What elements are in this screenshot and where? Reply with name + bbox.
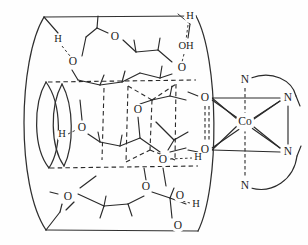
hidden-edge-vertical-left	[126, 86, 128, 162]
bond-low-7	[104, 204, 128, 206]
bond-upper-12	[78, 80, 100, 85]
bond-mid-8	[100, 142, 120, 146]
hbond-lower-left	[68, 130, 76, 134]
atom-label-o-lower-right: O	[176, 189, 184, 201]
atom-label-co: Co	[238, 115, 252, 127]
bond-low-2	[60, 204, 62, 212]
bond-mid-16	[156, 122, 174, 140]
bond-low-6	[100, 206, 104, 218]
bond-low-8	[128, 204, 132, 216]
atom-label-h-mid-right: H	[194, 151, 202, 162]
nitrogen-label-group: N N N N	[238, 73, 295, 193]
bond-upper-10	[158, 38, 160, 50]
bond-mid-14	[168, 140, 174, 150]
hidden-edge-lower	[50, 166, 198, 168]
atom-label-o-mid-center: O	[159, 153, 167, 165]
co-bond-o-lower	[212, 126, 237, 150]
atom-label-o-ligand-lower: O	[201, 143, 209, 155]
bond-upper-13	[100, 75, 104, 85]
macrocycle-label-group: H O O H OH O O H O O	[52, 10, 204, 232]
bond-upper-8	[158, 50, 172, 62]
atom-label-o-lower-left: O	[64, 190, 72, 202]
bond-upper-17	[140, 73, 160, 78]
bond-low-11	[152, 192, 170, 198]
torus-top-edge	[44, 16, 196, 17]
bond-low-5	[104, 196, 106, 206]
equatorial-edge-bottom	[212, 150, 280, 152]
bond-upper-5	[82, 37, 86, 56]
bond-upper-4	[86, 28, 97, 37]
atom-label-h-upper-left: H	[54, 33, 62, 44]
atom-label-h-mid-left: H	[58, 128, 66, 139]
atom-label-o-upper-left: O	[69, 55, 77, 67]
bond-mid-5	[138, 117, 140, 138]
atom-label-o-bottom-right: O	[174, 219, 182, 231]
bond-low-15	[163, 168, 166, 186]
o-link-to-macrocycle-upper	[188, 92, 198, 96]
hidden-ring-edges	[48, 80, 198, 168]
bond-low-3	[50, 192, 58, 194]
atom-label-oh-upper-right: OH	[178, 40, 194, 51]
bond-low-12	[170, 188, 174, 198]
atom-label-o-lower-center: O	[142, 180, 150, 192]
oxygen-ligand-label-group: O O	[198, 91, 212, 157]
bond-low-9	[128, 196, 144, 204]
glucose-backbone-upper	[44, 14, 190, 85]
bond-upper-2	[97, 28, 108, 33]
bond-upper-16	[122, 73, 140, 82]
glucose-backbone-middle	[80, 86, 188, 152]
bond-mid-12	[80, 100, 82, 120]
torus-cavity-inner-ellipse	[46, 82, 58, 168]
torus-left-rim	[24, 17, 46, 230]
atom-label-n-top: N	[241, 73, 250, 85]
metal-label-group: Co	[236, 113, 255, 132]
bond-upper-3	[97, 16, 98, 28]
bond-low-17	[80, 176, 96, 188]
atom-label-n-bottom: N	[241, 179, 250, 191]
atom-label-o-upper-right: O	[178, 61, 186, 73]
bond-upper-7	[136, 50, 158, 52]
bond-upper-11	[72, 70, 78, 80]
bond-upper-1	[44, 17, 58, 33]
structure-canvas: Co N N N N O O H	[0, 0, 308, 245]
hidden-edge-mid-vertical	[150, 100, 152, 150]
en-bridge-right-tail-2	[297, 146, 301, 156]
bond-upper-14	[100, 82, 122, 85]
atom-label-h-lower-right: H	[192, 198, 200, 209]
atom-label-o-mid-left: O	[78, 121, 86, 133]
bond-mid-7	[120, 138, 140, 146]
bond-mid-15	[174, 132, 188, 140]
en-bridge-right-tail	[296, 96, 300, 106]
hidden-edge-vertical-right	[175, 84, 176, 160]
bond-low-4	[78, 194, 104, 206]
bond-upper-18	[160, 74, 172, 78]
chemical-structure-figure: Co N N N N O O H	[0, 0, 308, 245]
bond-mid-4	[170, 86, 172, 96]
bond-low-10	[144, 168, 146, 180]
hidden-edge-inner-left	[102, 88, 104, 160]
bond-upper-19	[160, 66, 162, 78]
bond-low-1	[46, 212, 60, 230]
atom-label-n-lower-right: N	[284, 145, 293, 157]
torus-cavity-inner-arc-2	[62, 84, 71, 166]
bond-mid-9	[120, 135, 122, 146]
bond-mid-13	[170, 148, 186, 152]
atom-label-o-ligand-upper: O	[201, 91, 209, 103]
hidden-edge-diag-a	[128, 86, 152, 100]
torus-cavity-outer-ellipse	[37, 82, 49, 168]
en-bridge-bottom	[251, 156, 297, 189]
hidden-edge-diag-c	[126, 150, 150, 162]
bond-low-13	[170, 198, 172, 218]
atom-label-o-center: O	[134, 103, 142, 115]
atom-label-o-top-center: O	[111, 30, 119, 42]
bond-mid-3	[170, 96, 186, 100]
atom-label-h-top-right: H	[186, 10, 194, 21]
atom-label-n-upper-right: N	[284, 91, 293, 103]
